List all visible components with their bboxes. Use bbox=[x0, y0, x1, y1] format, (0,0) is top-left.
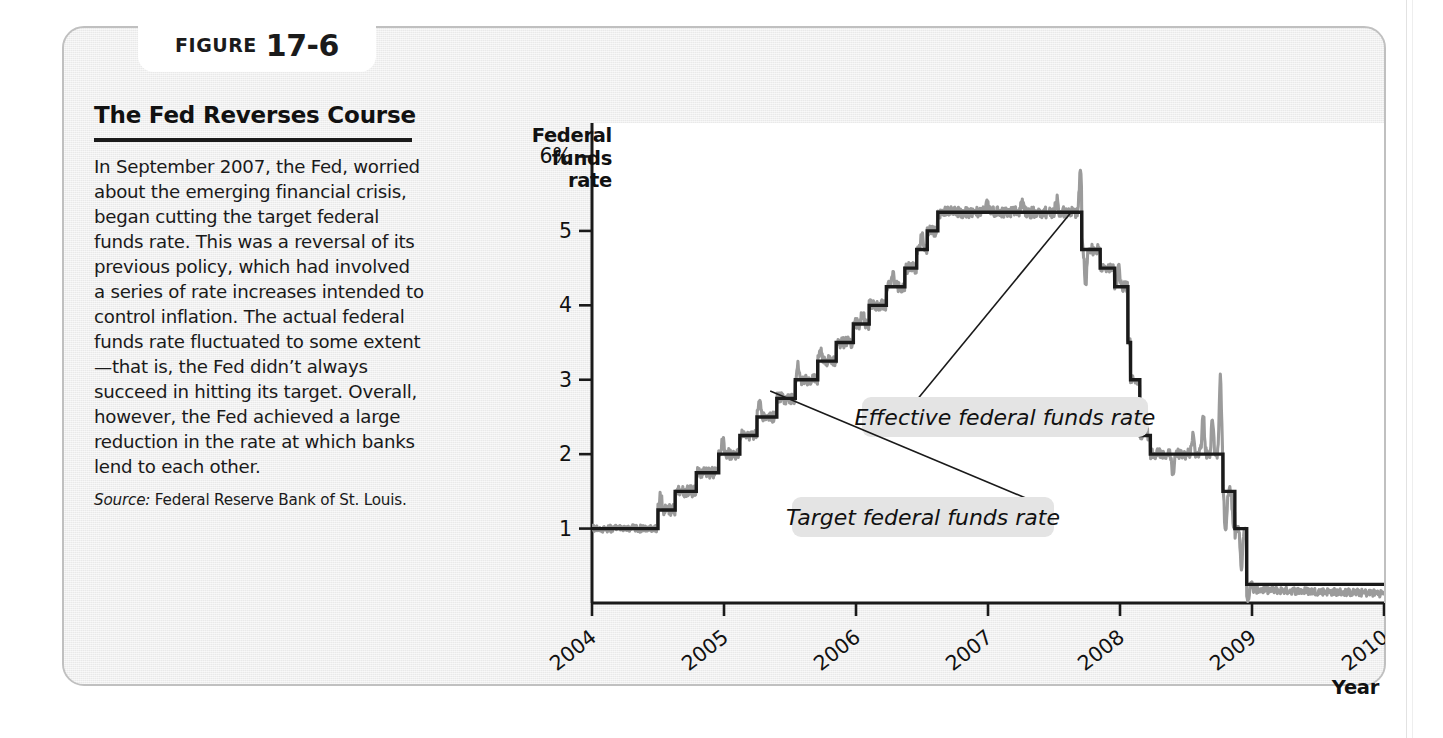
annotation-label: Target federal funds rate bbox=[786, 505, 1060, 530]
figure-number: 17-6 bbox=[266, 28, 339, 63]
x-tick-label: 2009 bbox=[1205, 625, 1261, 676]
source-label: Source: bbox=[94, 491, 150, 509]
x-tick-label: 2007 bbox=[941, 625, 997, 676]
figure-screenshot: FIGURE 17-6 The Fed Reverses Course In S… bbox=[0, 0, 1443, 738]
x-tick-label: 2006 bbox=[809, 625, 865, 676]
y-axis-title-line-1: Federal bbox=[532, 124, 612, 147]
title-divider bbox=[94, 138, 412, 142]
x-tick-label-group: 2006 bbox=[809, 625, 865, 676]
x-tick-label: 2010 bbox=[1337, 625, 1385, 676]
x-tick-label-group: 2004 bbox=[545, 625, 601, 676]
figure-body-text: In September 2007, the Fed, worried abou… bbox=[94, 155, 426, 479]
y-tick-label: 2 bbox=[559, 442, 572, 466]
x-tick-label-group: 2007 bbox=[941, 625, 997, 676]
y-tick-label: 5 bbox=[559, 219, 572, 243]
annotation-label: Effective federal funds rate bbox=[855, 405, 1156, 430]
y-axis-title: Federal funds rate bbox=[520, 125, 612, 193]
x-tick-label-group: 2010 bbox=[1337, 625, 1385, 676]
figure-title: The Fed Reverses Course bbox=[94, 102, 426, 128]
y-tick-label: 3 bbox=[559, 368, 572, 392]
page-edge-line-secondary bbox=[1412, 0, 1413, 738]
y-axis-title-line-3: rate bbox=[568, 169, 612, 192]
y-tick-label: 4 bbox=[559, 293, 572, 317]
x-tick-label: 2008 bbox=[1073, 625, 1129, 676]
figure-label-word: FIGURE bbox=[175, 34, 257, 56]
y-axis-title-line-2: funds bbox=[552, 147, 612, 170]
x-tick-label-group: 2008 bbox=[1073, 625, 1129, 676]
figure-panel: FIGURE 17-6 The Fed Reverses Course In S… bbox=[62, 26, 1386, 686]
x-tick-label-group: 2009 bbox=[1205, 625, 1261, 676]
figure-source: Source: Federal Reserve Bank of St. Loui… bbox=[94, 491, 426, 510]
x-axis-title: Year bbox=[1299, 677, 1379, 700]
chart-area: Federal funds rate Year 123456%200420052… bbox=[530, 97, 1385, 687]
federal-funds-rate-line-chart: 123456%2004200520062007200820092010Effec… bbox=[530, 97, 1385, 687]
page-edge-line bbox=[1406, 0, 1407, 738]
x-tick-label: 2004 bbox=[545, 625, 601, 676]
y-tick-label: 1 bbox=[559, 517, 572, 541]
source-text: Federal Reserve Bank of St. Louis. bbox=[155, 491, 407, 509]
figure-text-column: The Fed Reverses Course In September 200… bbox=[94, 102, 426, 510]
x-tick-label: 2005 bbox=[677, 625, 733, 676]
figure-number-tab: FIGURE 17-6 bbox=[138, 18, 376, 72]
x-tick-label-group: 2005 bbox=[677, 625, 733, 676]
